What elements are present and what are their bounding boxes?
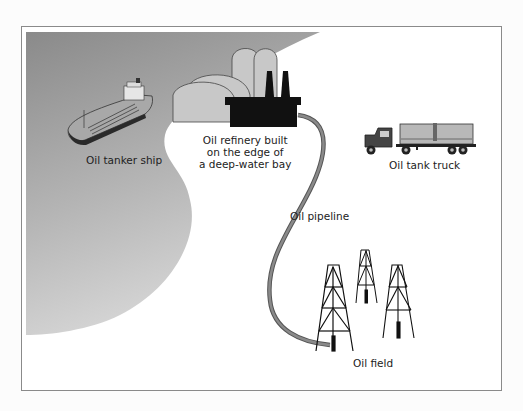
- label-refinery-line-1: Oil refinery built: [199, 134, 291, 146]
- oil-derrick-small-icon: [356, 250, 377, 303]
- label-oil-refinery: Oil refinery built on the edge of a deep…: [199, 134, 291, 170]
- label-oil-tanker-ship: Oil tanker ship: [86, 154, 162, 166]
- oil-tank-truck-icon: [365, 123, 476, 155]
- label-oil-tank-truck: Oil tank truck: [389, 159, 460, 171]
- label-refinery-line-2: on the edge of: [199, 146, 291, 158]
- oil-derrick-large-icon: [316, 265, 353, 351]
- label-oil-pipeline: Oil pipeline: [290, 210, 349, 222]
- label-refinery-line-3: a deep-water bay: [199, 158, 291, 170]
- oil-derrick-medium-icon: [383, 265, 414, 338]
- label-oil-field: Oil field: [353, 357, 393, 369]
- diagram-scene: [0, 0, 523, 411]
